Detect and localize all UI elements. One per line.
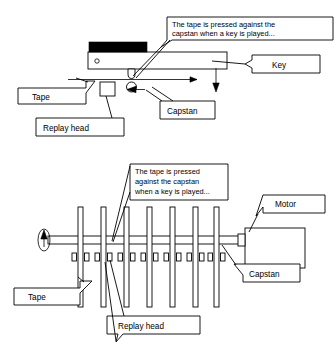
label-key-text: Key <box>272 61 287 70</box>
label-replay-head-top-leader <box>106 96 112 118</box>
replay-head-block <box>208 253 213 261</box>
label-motor-text: Motor <box>275 200 296 209</box>
key-cap-black[interactable] <box>89 42 147 52</box>
motor-body[interactable] <box>245 228 305 268</box>
callout-top-line2: capstan when a key is played... <box>172 29 275 38</box>
label-motor: Motor <box>249 195 325 232</box>
tape-strip <box>170 207 175 307</box>
tape-strip <box>101 207 106 307</box>
replay-head-block <box>131 253 136 261</box>
label-replay-head-bottom-text: Replay head <box>118 322 164 331</box>
replay-head-block <box>141 253 146 261</box>
replay-head-block-top <box>100 82 115 96</box>
callout-top-line1: The tape is pressed against the <box>172 20 275 29</box>
replay-head-block <box>85 253 90 261</box>
callout-bottom-line3: when a key is played... <box>134 187 210 196</box>
replay-head-block <box>177 253 182 261</box>
bottom-diagram: The tape is pressed against the capstan … <box>14 164 325 342</box>
label-replay-head-bottom: Replay head <box>105 260 200 342</box>
label-tape-top: Tape <box>18 78 95 104</box>
replay-head-block <box>108 253 113 261</box>
label-tape-top-box <box>18 81 95 104</box>
replay-head-block <box>118 253 123 261</box>
label-replay-head-top-text: Replay head <box>43 124 89 133</box>
tape-mechanism-figure: The tape is pressed against the capstan … <box>0 0 335 359</box>
top-diagram: The tape is pressed against the capstan … <box>18 17 333 136</box>
callout-bottom-line1: The tape is pressed <box>135 167 200 176</box>
label-capstan-top-text: Capstan <box>167 107 198 116</box>
label-key: Key <box>212 55 320 73</box>
tape-strip <box>124 207 129 307</box>
replay-head-block <box>154 253 159 261</box>
replay-head-block <box>221 253 226 261</box>
label-tape-top-text: Tape <box>32 93 50 102</box>
diagram-root: The tape is pressed against the capstan … <box>0 0 335 359</box>
label-tape-bottom-text: Tape <box>28 293 46 302</box>
key-motion-arrow-icon <box>213 83 219 92</box>
tape-strip <box>193 207 198 307</box>
replay-head-block <box>72 253 77 261</box>
replay-head-block <box>187 253 192 261</box>
replay-head-block <box>200 253 205 261</box>
motor-coupling <box>238 234 245 246</box>
label-replay-head-bottom-leader-2 <box>110 260 124 316</box>
callout-bottom-line2: against the capstan <box>135 177 199 186</box>
tape-direction-arrow-icon <box>190 77 197 82</box>
replay-head-block <box>95 253 100 261</box>
label-tape-bottom: Tape <box>14 277 92 305</box>
rotation-arrow-icon <box>41 230 47 239</box>
label-tape-top-leader <box>76 78 88 82</box>
label-capstan-top-leader-2 <box>152 87 173 101</box>
label-capstan-bottom-text: Capstan <box>249 270 280 279</box>
pressure-pad <box>128 69 135 79</box>
tape-strip <box>147 207 152 307</box>
label-tape-bottom-box <box>14 281 92 305</box>
label-capstan-top: Capstan <box>127 86 215 119</box>
replay-head-block <box>164 253 169 261</box>
tape-strip <box>214 207 219 307</box>
